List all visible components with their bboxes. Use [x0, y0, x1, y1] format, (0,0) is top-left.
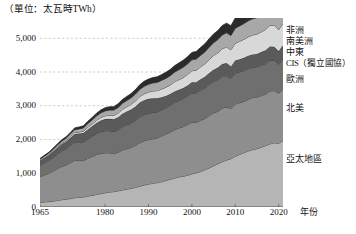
x-axis-tick: 1980 — [96, 208, 114, 217]
plot-area — [40, 18, 283, 207]
x-axis-tick: 2010 — [226, 208, 244, 217]
y-axis-tick: 1,000 — [2, 169, 36, 178]
y-axis-tick: 3,000 — [2, 101, 36, 110]
legend-item-1: 南美洲 — [286, 37, 313, 46]
legend-item-5: 北美 — [286, 104, 304, 113]
stacked-area-svg — [40, 18, 283, 207]
legend-item-6: 亞太地區 — [286, 155, 322, 164]
chart-root: （單位：太瓦時TWh） 01,0002,0003,0004,0005,000 1… — [0, 0, 356, 234]
y-axis-tick: 2,000 — [2, 135, 36, 144]
legend-item-4: 歐洲 — [286, 75, 304, 84]
x-axis-tick: 2000 — [183, 208, 201, 217]
x-axis-tick: 1990 — [139, 208, 157, 217]
legend-item-2: 中東 — [286, 48, 304, 57]
y-axis: 01,0002,0003,0004,0005,000 — [0, 0, 36, 234]
x-axis-title: 年份 — [300, 208, 318, 217]
x-axis-tick: 1965 — [31, 208, 49, 217]
legend-item-0: 非洲 — [286, 26, 304, 35]
legend-item-3: CIS（獨立國協） — [286, 59, 351, 68]
y-axis-tick: 5,000 — [2, 34, 36, 43]
x-axis-tick: 2020 — [270, 208, 288, 217]
y-axis-tick: 4,000 — [2, 68, 36, 77]
